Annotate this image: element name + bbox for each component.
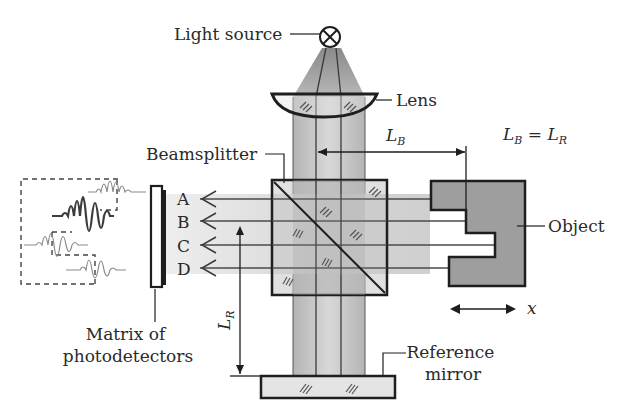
- motion-arrow-icon: [450, 304, 516, 314]
- beamsplitter: [272, 180, 387, 295]
- photodetector-matrix: [151, 186, 166, 322]
- equation-label: LB = LR: [502, 124, 567, 147]
- channel-a: A: [176, 189, 190, 209]
- reference-mirror-label: Reference mirror: [406, 342, 499, 384]
- light-source-label: Light source: [174, 24, 282, 44]
- lr-label: LR: [214, 310, 237, 331]
- object-label: Object: [548, 216, 605, 236]
- interferometer-diagram: Light source Lens Beamsplitter Object x …: [0, 0, 622, 409]
- light-source-icon: [290, 27, 340, 47]
- object: [431, 181, 525, 286]
- channel-b: B: [177, 212, 190, 232]
- beamsplitter-leader: [265, 154, 284, 183]
- photodetector-label: Matrix of photodetectors: [63, 324, 193, 366]
- light-cone: [293, 48, 365, 97]
- lens-label: Lens: [396, 90, 437, 110]
- channel-d: D: [177, 259, 191, 279]
- lb-label: LB: [385, 125, 405, 148]
- motion-axis-label: x: [527, 298, 537, 318]
- interferogram-signals: [21, 179, 146, 284]
- channel-c: C: [177, 236, 190, 256]
- beamsplitter-label: Beamsplitter: [146, 144, 258, 164]
